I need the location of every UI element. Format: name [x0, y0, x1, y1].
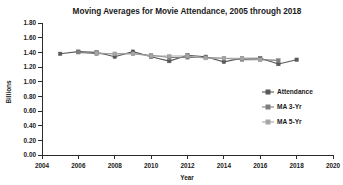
legend-marker-1 — [266, 105, 270, 109]
y-tick-label: 1.00 — [24, 78, 37, 85]
x-tick-label: 2010 — [144, 162, 159, 169]
x-tick-label: 2012 — [180, 162, 195, 169]
data-point-marker-2 — [131, 52, 134, 55]
x-tick-label: 2020 — [326, 162, 341, 169]
x-axis-title: Year — [180, 174, 194, 181]
data-point-marker-2 — [113, 52, 116, 55]
x-tick-label: 2016 — [253, 162, 268, 169]
data-point-marker-0 — [168, 59, 171, 62]
chart-legend: AttendanceMA 3-YrMA 5-Yr — [262, 88, 313, 125]
x-tick-label: 2014 — [217, 162, 232, 169]
movie-attendance-line-chart: Moving Averages for Movie Attendance, 20… — [0, 0, 343, 185]
data-point-marker-2 — [186, 54, 189, 57]
data-point-marker-2 — [222, 57, 225, 60]
data-point-marker-2 — [259, 58, 262, 61]
data-point-marker-2 — [204, 57, 207, 60]
data-point-marker-2 — [95, 51, 98, 54]
y-tick-label: 0.00 — [24, 151, 37, 158]
data-point-marker-2 — [240, 57, 243, 60]
data-point-marker-0 — [277, 62, 280, 65]
x-tick-label: 2018 — [290, 162, 305, 169]
legend-label-0: Attendance — [277, 88, 313, 95]
data-point-marker-2 — [149, 54, 152, 57]
data-point-marker-0 — [58, 52, 61, 55]
y-tick-label: 1.20 — [24, 63, 37, 70]
y-tick-label: 0.20 — [24, 137, 37, 144]
data-point-marker-1 — [277, 59, 280, 62]
legend-label-2: MA 5-Yr — [277, 118, 302, 125]
chart-container: Moving Averages for Movie Attendance, 20… — [0, 0, 343, 185]
x-tick-label: 2008 — [108, 162, 123, 169]
legend-marker-0 — [266, 90, 270, 94]
y-tick-label: 0.80 — [24, 93, 37, 100]
y-axis-ticks: 0.000.200.400.600.801.001.201.401.601.80 — [24, 19, 42, 158]
x-axis-ticks: 200420062008201020122014201620182020 — [35, 155, 341, 169]
y-tick-label: 1.60 — [24, 34, 37, 41]
data-point-marker-2 — [168, 54, 171, 57]
y-tick-label: 0.60 — [24, 107, 37, 114]
legend-label-1: MA 3-Yr — [277, 103, 302, 110]
legend-marker-2 — [266, 120, 270, 124]
y-tick-label: 1.80 — [24, 19, 37, 26]
data-point-marker-1 — [77, 51, 80, 54]
y-axis-title: Billions — [5, 80, 12, 104]
data-point-marker-0 — [295, 58, 298, 61]
chart-title: Moving Averages for Movie Attendance, 20… — [73, 7, 302, 16]
y-tick-label: 0.40 — [24, 122, 37, 129]
x-tick-label: 2004 — [35, 162, 50, 169]
data-point-marker-0 — [222, 60, 225, 63]
y-tick-label: 1.40 — [24, 49, 37, 56]
x-tick-label: 2006 — [71, 162, 86, 169]
